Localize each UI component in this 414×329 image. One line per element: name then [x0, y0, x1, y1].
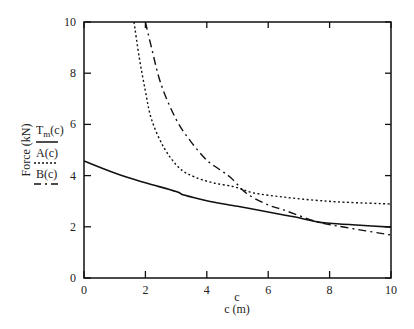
y-axis-title: Force (kN): [19, 124, 33, 177]
x-tick-label: 2: [142, 283, 148, 297]
x-tick-label: 8: [327, 283, 333, 297]
y-tick-label: 0: [70, 271, 76, 285]
legend-item-b: B(c): [34, 167, 58, 184]
legend-label-tm: Tm(c): [36, 123, 64, 139]
y-tick-label: 8: [70, 66, 76, 80]
legend-item-tm: Tm(c): [36, 123, 64, 142]
y-axis-label: Force (kN): [19, 124, 33, 177]
series-line-bc: [145, 22, 391, 235]
y-tick-labels: 0246810: [64, 15, 76, 285]
x-tick-label: 6: [265, 283, 271, 297]
curves: [84, 22, 391, 235]
axis-ticks: [84, 22, 391, 278]
x-tick-label: 10: [385, 283, 397, 297]
y-tick-label: 6: [70, 117, 76, 131]
y-tick-label: 2: [70, 220, 76, 234]
legend-label-a: A(c): [36, 146, 58, 160]
x-tick-label: 0: [81, 283, 87, 297]
legend-item-a: A(c): [34, 146, 58, 163]
y-tick-label: 4: [70, 169, 76, 183]
x-axis-title: c (m): [224, 302, 250, 316]
chart: 0246810 0246810 c c (m) Force (kN) Tm(c)…: [0, 0, 414, 329]
legend-label-b: B(c): [36, 167, 57, 181]
x-tick-label: 4: [204, 283, 210, 297]
legend: Tm(c) A(c) B(c): [34, 123, 64, 184]
series-line-tmc: [84, 161, 391, 227]
plot-frame: [84, 22, 391, 278]
x-axis-label: c c (m): [224, 290, 250, 316]
y-tick-label: 10: [64, 15, 76, 29]
